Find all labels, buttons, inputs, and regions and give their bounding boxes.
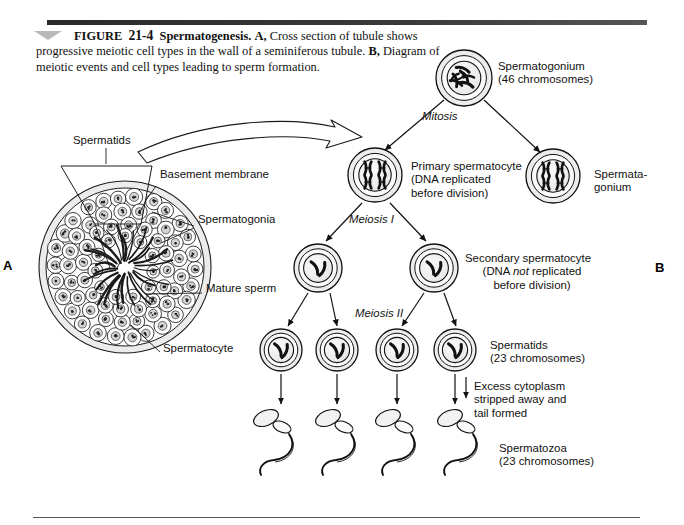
label-spermatagonium-right: Spermata- gonium (594, 168, 647, 195)
label-secondary-line1: Secondary spermatocyte (465, 252, 615, 265)
label-spermatids-a: Spermatids (73, 134, 131, 147)
label-spermatids-b: Spermatids (23 chromosomes) (490, 339, 585, 366)
label-basement-membrane: Basement membrane (160, 168, 269, 181)
label-mature-sperm: Mature sperm (206, 282, 276, 295)
transition-arrow-icon (138, 120, 362, 163)
label-spermatogonia: Spermatogonia (198, 213, 275, 226)
sperm-spermatozoon-3 (373, 406, 415, 475)
cell-secondary-spermatocyte-2 (410, 244, 458, 292)
footer-rule (33, 517, 640, 518)
label-secondary-line2: (DNA not replicated (465, 265, 599, 278)
sperm-spermatozoon-2 (313, 406, 355, 475)
sperm-spermatozoon-1 (251, 406, 293, 475)
cell-spermatogonium-top (436, 50, 492, 106)
cell-spermatogonium-right (526, 149, 580, 203)
cell-spermatid-3 (376, 329, 418, 371)
label-secondary-not: not (513, 265, 529, 277)
cell-spermatid-1 (260, 329, 302, 371)
label-secondary-line3: before division) (465, 279, 599, 292)
label-excess-cytoplasm: Excess cytoplasm stripped away and tail … (474, 380, 566, 420)
cell-secondary-spermatocyte-1 (294, 244, 342, 292)
label-spermatocyte: Spermatocyte (163, 342, 233, 355)
label-meiosis-i: Meiosis I (349, 213, 394, 226)
label-secondary-spermatocyte: Secondary spermatocyte (DNA not replicat… (465, 252, 615, 292)
label-spermatogonium: Spermatogonium (46 chromosomes) (498, 60, 593, 87)
label-meiosis-ii: Meiosis II (355, 307, 403, 320)
label-mitosis: Mitosis (422, 110, 457, 123)
cell-spermatid-2 (316, 329, 358, 371)
cell-primary-spermatocyte (348, 148, 402, 202)
sperm-spermatozoon-4 (435, 406, 477, 475)
tubule-cross-section (39, 166, 211, 353)
label-spermatozoa: Spermatozoa (23 chromosomes) (499, 442, 594, 469)
cell-spermatid-4 (434, 329, 476, 371)
label-primary-spermatocyte: Primary spermatocyte (DNA replicated bef… (411, 160, 522, 200)
